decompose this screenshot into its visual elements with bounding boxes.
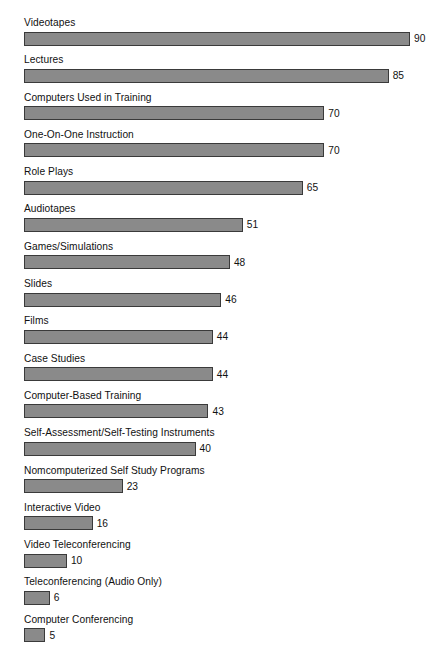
bar-line: 40 <box>24 440 436 457</box>
bar-row: Self-Assessment/Self-Testing Instruments… <box>0 427 436 464</box>
bar-category-label: Computers Used in Training <box>24 92 436 105</box>
bar-value-label: 43 <box>212 406 223 417</box>
bar-rect <box>24 143 324 157</box>
bar-category-label: Case Studies <box>24 353 436 366</box>
bar-line: 51 <box>24 216 436 233</box>
bar-category-label: Computer Conferencing <box>24 614 436 627</box>
bar-row: Audiotapes51 <box>0 203 436 240</box>
bar-line: 85 <box>24 67 436 84</box>
bar-category-label: Slides <box>24 278 436 291</box>
bar-category-label: Role Plays <box>24 166 436 179</box>
bar-line: 6 <box>24 589 436 606</box>
bar-row: Computer-Based Training43 <box>0 390 436 427</box>
bar-value-label: 51 <box>247 219 258 230</box>
bar-category-label: Audiotapes <box>24 203 436 216</box>
bar-rect <box>24 404 208 418</box>
bar-category-label: Games/Simulations <box>24 241 436 254</box>
horizontal-bar-chart: Videotapes90Lectures85Computers Used in … <box>0 0 436 662</box>
bar-row: Films44 <box>0 315 436 352</box>
bar-category-label: Interactive Video <box>24 502 436 515</box>
bar-rect <box>24 442 196 456</box>
bar-row: Teleconferencing (Audio Only)6 <box>0 576 436 613</box>
bar-line: 44 <box>24 366 436 383</box>
bar-category-label: Computer-Based Training <box>24 390 436 403</box>
bar-row: Videotapes90 <box>0 17 436 54</box>
bar-rect <box>24 367 213 381</box>
bar-line: 70 <box>24 105 436 122</box>
bar-rect <box>24 479 123 493</box>
bar-row: Computers Used in Training70 <box>0 92 436 129</box>
bar-row: Slides46 <box>0 278 436 315</box>
bar-row: Interactive Video16 <box>0 502 436 539</box>
bar-value-label: 90 <box>414 33 425 44</box>
bar-category-label: Films <box>24 315 436 328</box>
bar-row: Games/Simulations48 <box>0 241 436 278</box>
bar-rect <box>24 218 243 232</box>
bar-value-label: 40 <box>200 443 211 454</box>
bar-line: 16 <box>24 515 436 532</box>
bar-value-label: 44 <box>217 369 228 380</box>
bar-line: 48 <box>24 254 436 271</box>
bar-rect <box>24 330 213 344</box>
bar-rect <box>24 69 389 83</box>
bar-value-label: 46 <box>225 294 236 305</box>
bar-category-label: One-On-One Instruction <box>24 129 436 142</box>
bar-value-label: 23 <box>127 481 138 492</box>
bar-category-label: Video Teleconferencing <box>24 539 436 552</box>
bar-line: 23 <box>24 478 436 495</box>
bar-value-label: 85 <box>393 70 404 81</box>
bar-line: 90 <box>24 30 436 47</box>
bar-row: One-On-One Instruction70 <box>0 129 436 166</box>
bar-line: 65 <box>24 179 436 196</box>
bar-category-label: Teleconferencing (Audio Only) <box>24 576 436 589</box>
bar-row: Role Plays65 <box>0 166 436 203</box>
bar-rect <box>24 32 410 46</box>
bar-rect <box>24 516 93 530</box>
bar-value-label: 70 <box>328 108 339 119</box>
bar-rect <box>24 181 303 195</box>
bar-category-label: Nomcomputerized Self Study Programs <box>24 465 436 478</box>
bar-line: 10 <box>24 552 436 569</box>
bar-rect <box>24 293 221 307</box>
bar-row: Computer Conferencing5 <box>0 614 436 651</box>
bar-row: Nomcomputerized Self Study Programs23 <box>0 465 436 502</box>
bar-rect <box>24 554 67 568</box>
bar-rect <box>24 255 230 269</box>
bar-value-label: 5 <box>49 630 55 641</box>
bar-value-label: 10 <box>71 555 82 566</box>
bar-row: Lectures85 <box>0 54 436 91</box>
bar-line: 44 <box>24 328 436 345</box>
bar-line: 70 <box>24 142 436 159</box>
bar-rect <box>24 628 45 642</box>
bar-category-label: Self-Assessment/Self-Testing Instruments <box>24 427 436 440</box>
bar-line: 43 <box>24 403 436 420</box>
bar-category-label: Lectures <box>24 54 436 67</box>
bar-value-label: 16 <box>97 518 108 529</box>
bar-row: Video Teleconferencing10 <box>0 539 436 576</box>
bar-value-label: 70 <box>328 145 339 156</box>
bar-row: Case Studies44 <box>0 353 436 390</box>
bar-value-label: 48 <box>234 257 245 268</box>
bar-value-label: 44 <box>217 331 228 342</box>
bar-value-label: 6 <box>54 592 60 603</box>
bar-rect <box>24 591 50 605</box>
bar-value-label: 65 <box>307 182 318 193</box>
bar-line: 46 <box>24 291 436 308</box>
bar-rect <box>24 106 324 120</box>
bar-line: 5 <box>24 627 436 644</box>
bar-category-label: Videotapes <box>24 17 436 30</box>
